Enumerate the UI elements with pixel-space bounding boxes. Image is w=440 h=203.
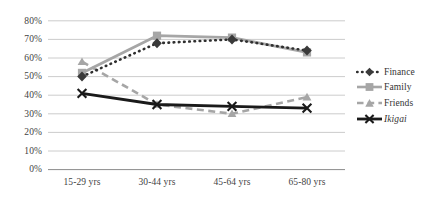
xtick-label-65-80: 65-80 yrs <box>267 177 347 187</box>
xtick-label-15-29: 15-29 yrs <box>42 177 122 187</box>
ytick-label-60: 60% <box>8 53 42 63</box>
xtick-label-45-64: 45-64 yrs <box>192 177 272 187</box>
xtick-label-30-44: 30-44 yrs <box>117 177 197 187</box>
ytick-label-50: 50% <box>8 71 42 81</box>
series-ikigai <box>78 89 312 113</box>
ytick-label-70: 70% <box>8 34 42 44</box>
legend: Finance Family Friends <box>356 64 440 126</box>
legend-label-friends: Friends <box>383 98 413 108</box>
ytick-label-0: 0% <box>8 164 42 174</box>
friends-line-marker-icon <box>356 96 383 110</box>
finance-line-marker-icon <box>356 65 383 79</box>
family-line-marker-icon <box>356 80 383 94</box>
chart-container: 80% 70% 60% 50% 40% 30% 20% 10% 0% 15-29… <box>0 0 440 203</box>
ytick-label-10: 10% <box>8 146 42 156</box>
series-family <box>78 32 311 77</box>
ikigai-line-marker-icon <box>356 112 383 126</box>
ytick-label-40: 40% <box>8 90 42 100</box>
legend-label-ikigai: Ikigai <box>383 114 407 124</box>
ytick-label-80: 80% <box>8 16 42 26</box>
legend-label-finance: Finance <box>383 67 415 77</box>
ytick-label-30: 30% <box>8 109 42 119</box>
legend-item-finance[interactable]: Finance <box>356 64 440 80</box>
gridlines <box>48 21 345 151</box>
legend-label-family: Family <box>383 82 412 92</box>
legend-item-friends[interactable]: Friends <box>356 95 440 111</box>
ytick-label-20: 20% <box>8 127 42 137</box>
legend-item-family[interactable]: Family <box>356 80 440 96</box>
legend-item-ikigai[interactable]: Ikigai <box>356 111 440 127</box>
